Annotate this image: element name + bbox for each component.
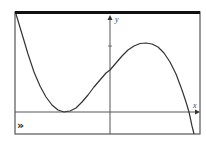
double-chevron-right-icon[interactable]: » [17, 119, 24, 132]
x-axis-label: x [192, 101, 197, 110]
y-axis-label: y [114, 15, 119, 24]
graph-frame [15, 12, 200, 134]
screen-top-bar [15, 11, 200, 14]
graph-screen: x y » [0, 0, 206, 146]
